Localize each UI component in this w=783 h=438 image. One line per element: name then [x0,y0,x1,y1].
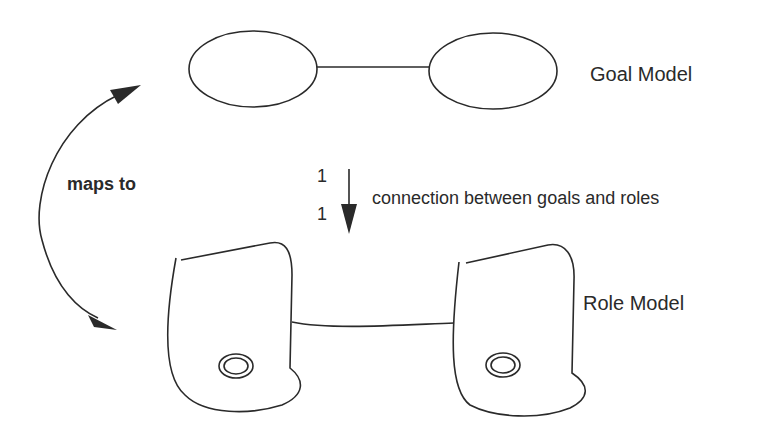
role-edge [292,322,454,326]
role-node-1 [168,242,301,411]
role-node-1-inner-circle [224,358,248,374]
role-node-2-inner-circle [491,357,515,373]
multiplicity-top: 1 [317,166,327,187]
role-model-label: Role Model [583,292,684,315]
connection-label: connection between goals and roles [372,188,659,209]
goal-node-2 [429,33,557,109]
goal-model-label: Goal Model [590,63,692,86]
maps-to-arrowhead-top [110,85,141,104]
maps-to-label: maps to [67,174,136,195]
maps-to-curve [39,95,118,318]
goal-node-1 [189,31,317,107]
role-node-2 [453,245,585,416]
connection-arrowhead [341,204,357,234]
multiplicity-bottom: 1 [317,204,327,225]
maps-to-arrowhead-bottom [88,315,117,330]
